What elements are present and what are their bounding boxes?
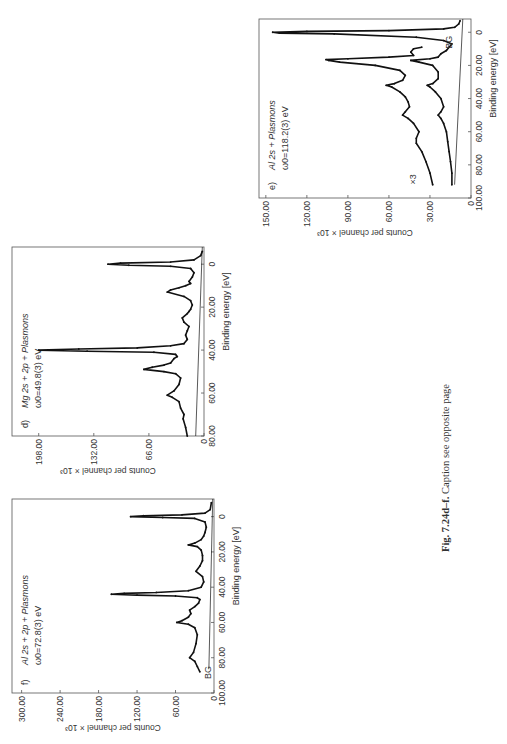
y-tick-label: 132.00: [89, 439, 99, 465]
y-tick-label: 60.00: [384, 201, 394, 223]
annotation: BG: [444, 36, 454, 49]
panel-subtitle: ω0=72.8(3) eV: [33, 606, 43, 665]
x-tick-label: 0: [207, 262, 217, 267]
x-tick-label: 100.00: [474, 185, 484, 211]
x-axis-label: Binding energy [eV]: [221, 272, 231, 351]
y-tick-label: 120.00: [302, 201, 312, 227]
panel-label: f): [20, 679, 30, 685]
y-tick-label: 300.00: [17, 696, 27, 722]
x-tick-label: 80.00: [217, 647, 227, 669]
spectrum-line: [326, 47, 433, 185]
y-axis-label: Counts per channel × 10³: [65, 723, 161, 733]
y-tick-label: 0: [209, 696, 219, 701]
x-axis-label: Binding energy [eV]: [488, 39, 498, 118]
y-tick-label: 60.00: [171, 696, 181, 718]
x-tick-label: 60.00: [217, 612, 227, 634]
x-axis-label: Binding energy [eV]: [231, 527, 241, 606]
x-tick-label: 20.00: [207, 296, 217, 318]
spectrum-line: [111, 503, 211, 672]
y-tick-label: 240.00: [55, 696, 65, 722]
y-tick-label: 0: [199, 439, 209, 444]
x-tick-label: 40.00: [207, 339, 217, 361]
y-tick-label: 0: [466, 201, 476, 206]
chart-f: 100.0080.0060.0040.0020.000060.00120.001…: [8, 495, 248, 735]
caption-text: Caption see opposite page: [440, 384, 451, 497]
x-tick-label: 0: [474, 30, 484, 35]
panel-subtitle: ω0=49.8(3) eV: [33, 349, 43, 408]
y-tick-label: 120.00: [132, 696, 142, 722]
y-tick-label: 90.00: [343, 201, 353, 223]
chart-e: 100.0080.0060.0040.0020.000030.0060.0090…: [255, 15, 505, 240]
annotation: ×3: [408, 174, 418, 184]
x-tick-label: 40.00: [217, 576, 227, 598]
background-line: [455, 19, 463, 185]
x-tick-label: 100.00: [217, 680, 227, 706]
caption-prefix: Fig. 7.24d–f.: [440, 497, 451, 552]
y-tick-label: 66.00: [144, 439, 154, 461]
x-tick-label: 80.00: [474, 154, 484, 176]
spectrum-line: [273, 21, 460, 185]
x-tick-label: 20.00: [217, 541, 227, 563]
background-line: [196, 247, 203, 436]
y-axis-label: Counts per channel × 10³: [60, 466, 156, 476]
annotation: BG: [203, 666, 213, 679]
y-tick-label: 150.00: [261, 201, 271, 227]
panel-label: e): [267, 182, 277, 190]
x-tick-label: 40.00: [474, 88, 484, 110]
panel-title: Mg 2s + 2p + Plasmons: [20, 313, 30, 408]
panel-subtitle: ω0=118.2(3) eV: [280, 106, 290, 170]
y-tick-label: 180.00: [94, 696, 104, 722]
y-tick-label: 30.00: [425, 201, 435, 223]
chart-d: 80.0060.0040.0020.000066.00132.00198.00B…: [8, 243, 238, 478]
x-tick-label: 60.00: [474, 121, 484, 143]
y-tick-label: 198.00: [34, 439, 44, 465]
panel-title: Al 2s + 2p + Plasmons: [20, 574, 30, 666]
y-axis-label: Counts per channel × 10³: [317, 228, 413, 238]
panel-title: Al 2s + Plasmons: [267, 100, 277, 171]
plot-frame: [259, 19, 471, 198]
x-tick-label: 20.00: [474, 55, 484, 77]
x-tick-label: 0: [217, 514, 227, 519]
background-line: [209, 499, 213, 668]
spectrum-line: [39, 251, 203, 436]
x-tick-label: 60.00: [207, 382, 217, 404]
figure-caption: Fig. 7.24d–f. Caption see opposite page: [440, 384, 451, 552]
panel-label: d): [20, 420, 30, 428]
